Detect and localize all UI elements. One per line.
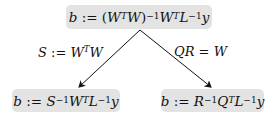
var-L: L	[89, 93, 98, 109]
inverse: −1	[204, 95, 217, 105]
transpose: T	[83, 95, 89, 105]
transpose: T	[228, 95, 234, 105]
inverse: −1	[243, 95, 256, 105]
var-W: W	[107, 9, 121, 25]
var-Q: Q	[217, 93, 228, 109]
root-node: b := (WTW)−1WTL−1y	[66, 5, 212, 29]
edge-label-right: QR = W	[174, 44, 227, 59]
inverse: −1	[188, 11, 201, 21]
inverse: −1	[56, 95, 69, 105]
var-S: S	[46, 93, 55, 109]
var-W: W	[159, 9, 173, 25]
var-R: R	[194, 93, 204, 109]
var-QR: QR	[174, 44, 194, 59]
var-b: b	[69, 9, 78, 25]
var-W: W	[90, 45, 103, 60]
transpose: T	[121, 11, 127, 21]
assign-op: :=	[77, 9, 101, 25]
transpose: T	[173, 11, 179, 21]
var-L: L	[234, 93, 243, 109]
leaf-node-left: b := S−1WTL−1y	[12, 89, 120, 112]
var-b: b	[161, 93, 170, 109]
assign-op: :=	[169, 93, 193, 109]
inverse: −1	[146, 11, 159, 21]
var-S: S	[38, 45, 47, 60]
edge-label-left: S := WTW	[38, 44, 103, 60]
assign-op: :=	[47, 45, 71, 60]
var-W: W	[69, 93, 83, 109]
var-b: b	[13, 93, 22, 109]
var-y: y	[111, 93, 119, 109]
var-y: y	[202, 9, 210, 25]
var-L: L	[179, 9, 188, 25]
var-W: W	[127, 9, 141, 25]
inverse: −1	[98, 95, 111, 105]
assign-op: :=	[22, 93, 46, 109]
var-W: W	[70, 45, 83, 60]
var-W: W	[214, 44, 227, 59]
var-y: y	[257, 93, 265, 109]
leaf-node-right: b := R−1QTL−1y	[161, 89, 264, 112]
equals-op: =	[194, 44, 213, 59]
